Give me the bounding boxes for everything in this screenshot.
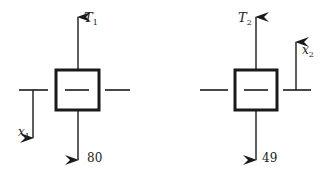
right-block-group: T2 49 x2 <box>200 10 314 165</box>
tension-label-t1: T1 <box>84 10 98 27</box>
left-block-group: T1 80 x1 <box>18 10 130 165</box>
free-body-diagram: T1 80 x1 T2 49 x2 <box>0 0 329 172</box>
displacement-label-x2: x2 <box>302 43 314 59</box>
weight-label-49: 49 <box>262 151 277 165</box>
displacement-label-x1: x1 <box>18 125 30 141</box>
weight-label-80: 80 <box>87 151 102 165</box>
tension-label-t2: T2 <box>238 10 252 27</box>
